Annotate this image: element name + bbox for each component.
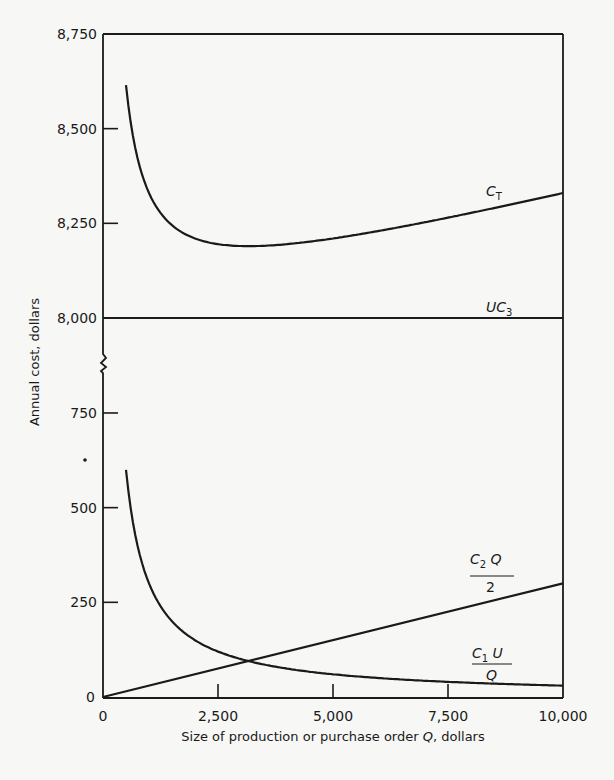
y-tick-label: 750 — [70, 405, 97, 421]
y-axis-title: Annual cost, dollars — [27, 298, 42, 426]
x-tick-label: 0 — [99, 708, 108, 724]
stray-mark — [83, 458, 87, 462]
plot-frame — [101, 34, 563, 698]
y-tick-label: 0 — [86, 689, 95, 705]
label-ct: CT — [486, 183, 503, 202]
y-tick-label: 8,500 — [57, 121, 97, 137]
svg-text:C1 U: C1 U — [472, 645, 503, 664]
chart: 8,0008,2508,5008,7500250500750 02,5005,0… — [0, 0, 614, 780]
svg-text:Q: Q — [486, 667, 497, 683]
svg-text:2: 2 — [486, 579, 495, 595]
curve-total-cost — [126, 85, 563, 246]
label-c1u-over-q: C1 U Q — [472, 645, 512, 683]
x-axis-title: Size of production or purchase order Q, … — [181, 729, 485, 744]
svg-text:C2 Q: C2 Q — [470, 551, 502, 570]
y-tick-label: 250 — [70, 594, 97, 610]
y-tick-label: 8,250 — [57, 215, 97, 231]
label-c2q-over-2: C2 Q 2 — [470, 551, 514, 595]
x-tick-label: 2,500 — [198, 708, 238, 724]
y-tick-label: 500 — [70, 500, 97, 516]
x-tick-label: 7,500 — [428, 708, 468, 724]
label-uc3: UC3 — [486, 299, 512, 318]
y-tick-label: 8,000 — [57, 310, 97, 326]
x-tick-label: 10,000 — [539, 708, 588, 724]
curves — [103, 85, 563, 697]
y-axis-break — [101, 34, 106, 698]
y-ticks: 8,0008,2508,5008,7500250500750 — [57, 26, 118, 705]
x-ticks: 02,5005,0007,50010,000 — [99, 684, 588, 724]
x-tick-label: 5,000 — [313, 708, 353, 724]
y-tick-label: 8,750 — [57, 26, 97, 42]
